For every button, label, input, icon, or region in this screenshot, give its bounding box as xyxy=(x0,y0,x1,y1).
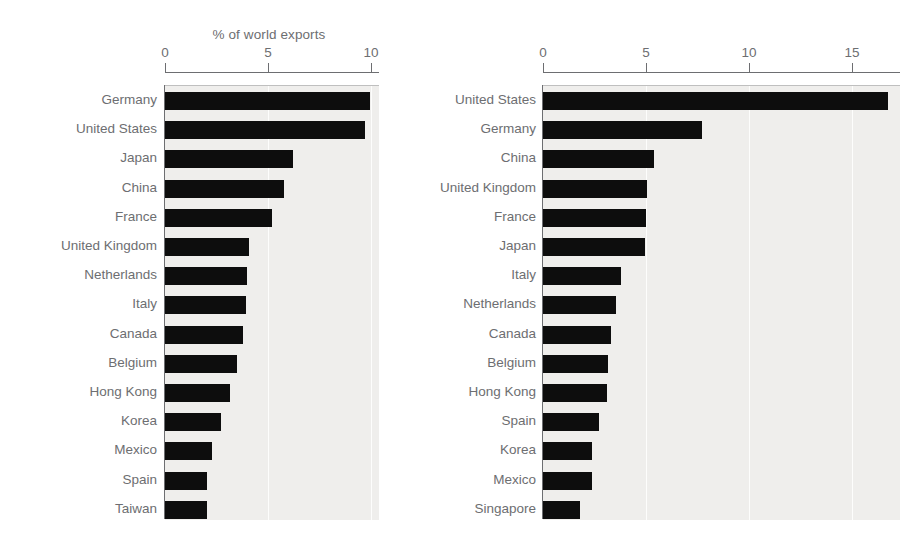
exports-chart-panel: % of world exports 0510 GermanyUnited St… xyxy=(0,0,400,547)
x-tick-mark xyxy=(749,63,750,73)
bar xyxy=(543,92,888,110)
category-label: Netherlands xyxy=(84,266,157,284)
bar xyxy=(543,296,616,314)
category-label: Spain xyxy=(501,412,536,430)
category-label: United States xyxy=(76,120,157,138)
bar xyxy=(165,355,237,373)
category-label: France xyxy=(494,208,536,226)
imports-chart-panel: % of world imports 051015 United StatesG… xyxy=(395,0,922,547)
bar xyxy=(165,209,272,227)
imports-x-axis-line xyxy=(543,72,900,73)
exports-chart-title: % of world exports xyxy=(165,27,373,42)
imports-plot-area xyxy=(543,85,900,520)
category-label: Netherlands xyxy=(463,295,536,313)
x-tick-mark xyxy=(165,63,166,73)
category-label: Spain xyxy=(122,471,157,489)
x-tick-mark xyxy=(543,63,544,73)
x-tick-label: 0 xyxy=(539,45,547,60)
x-tick-label: 0 xyxy=(161,45,169,60)
category-label: Japan xyxy=(499,237,536,255)
category-label: China xyxy=(122,179,157,197)
x-gridline xyxy=(371,86,372,520)
bar xyxy=(543,472,592,490)
category-label: Belgium xyxy=(108,354,157,372)
bar xyxy=(165,267,247,285)
bar xyxy=(543,442,592,460)
category-label: Canada xyxy=(110,325,157,343)
x-gridline xyxy=(852,86,853,520)
category-label: Korea xyxy=(500,441,536,459)
bar xyxy=(543,180,647,198)
bar xyxy=(165,326,243,344)
category-label: Belgium xyxy=(487,354,536,372)
category-label: Singapore xyxy=(474,500,536,518)
imports-x-tick-labels: 051015 xyxy=(395,45,922,63)
category-label: Italy xyxy=(132,295,157,313)
bar xyxy=(543,209,646,227)
category-label: Mexico xyxy=(493,471,536,489)
y-axis-spine xyxy=(542,85,543,519)
category-label: Canada xyxy=(489,325,536,343)
bar xyxy=(165,296,246,314)
bar xyxy=(543,238,645,256)
bar xyxy=(543,355,608,373)
bar xyxy=(543,150,654,168)
category-label: China xyxy=(501,149,536,167)
bar xyxy=(543,384,607,402)
x-gridline xyxy=(749,86,750,520)
category-label: Taiwan xyxy=(115,500,157,518)
exports-x-axis-line xyxy=(165,72,379,73)
bar xyxy=(165,472,207,490)
category-label: Hong Kong xyxy=(89,383,157,401)
x-tick-mark xyxy=(268,63,269,73)
bar xyxy=(543,413,599,431)
x-tick-label: 10 xyxy=(741,45,756,60)
bar xyxy=(165,150,293,168)
exports-plot-area xyxy=(165,85,379,520)
category-label: Germany xyxy=(480,120,536,138)
bar xyxy=(543,121,702,139)
x-tick-label: 15 xyxy=(844,45,859,60)
bar xyxy=(165,413,221,431)
x-tick-label: 5 xyxy=(264,45,272,60)
category-label: United Kingdom xyxy=(440,179,536,197)
bar xyxy=(165,238,249,256)
x-tick-label: 10 xyxy=(363,45,378,60)
category-label: United Kingdom xyxy=(61,237,157,255)
bar xyxy=(165,92,370,110)
bar xyxy=(165,384,230,402)
category-label: France xyxy=(115,208,157,226)
bar xyxy=(543,501,580,519)
category-label: United States xyxy=(455,91,536,109)
category-label: Italy xyxy=(511,266,536,284)
category-label: Korea xyxy=(121,412,157,430)
category-label: Germany xyxy=(101,91,157,109)
x-tick-label: 5 xyxy=(642,45,650,60)
bar xyxy=(165,180,284,198)
bar xyxy=(543,326,611,344)
category-label: Mexico xyxy=(114,441,157,459)
y-axis-spine xyxy=(164,85,165,519)
chart-page: { "chart_data": [ { "type": "bar", "orie… xyxy=(0,0,922,547)
exports-x-tick-labels: 0510 xyxy=(0,45,400,63)
x-tick-mark xyxy=(371,63,372,73)
bar xyxy=(165,501,207,519)
bar xyxy=(543,267,621,285)
category-label: Japan xyxy=(120,149,157,167)
x-tick-mark xyxy=(646,63,647,73)
bar xyxy=(165,442,212,460)
bar xyxy=(165,121,365,139)
category-label: Hong Kong xyxy=(468,383,536,401)
x-tick-mark xyxy=(852,63,853,73)
